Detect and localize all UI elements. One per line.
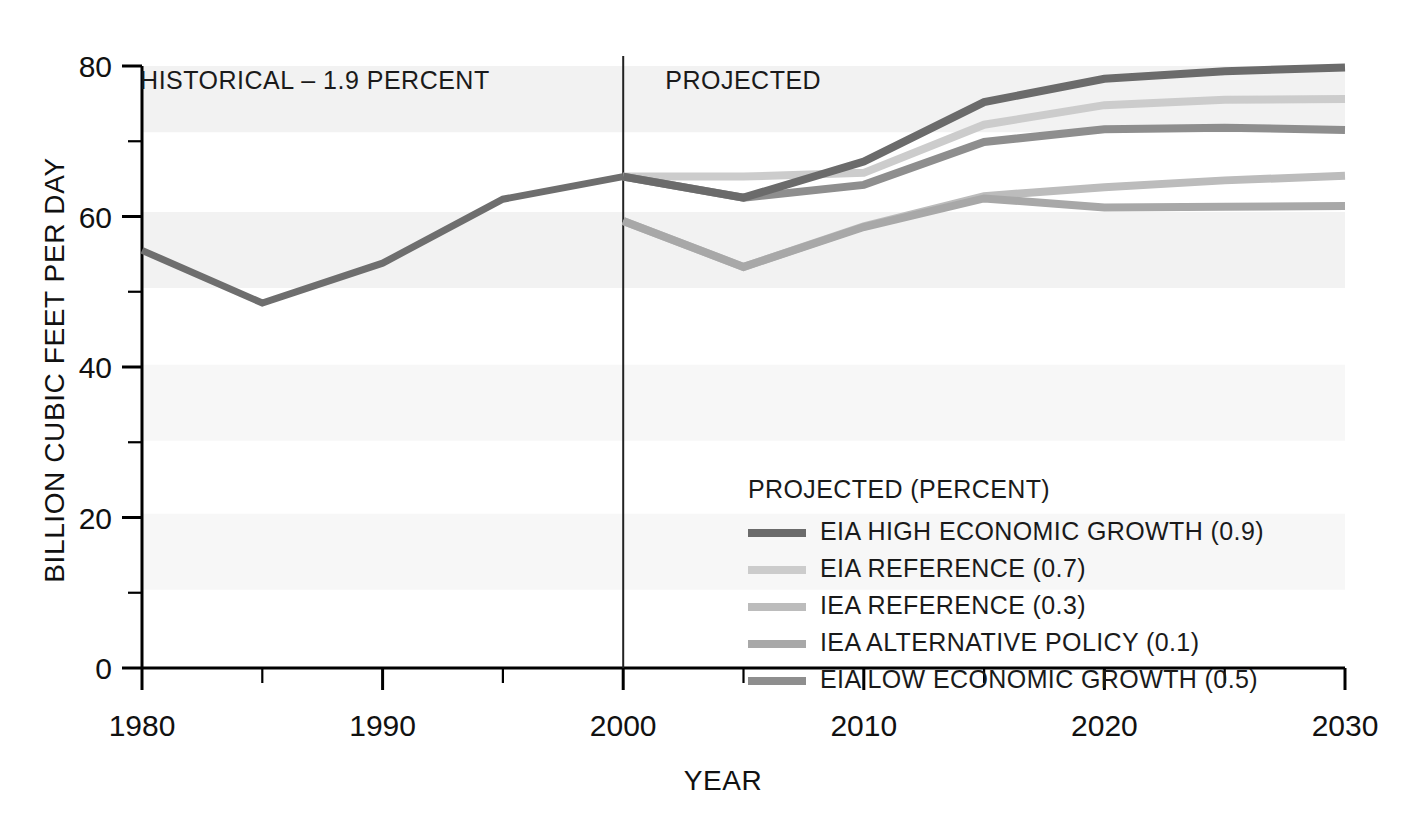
projected-label: PROJECTED (665, 66, 821, 94)
legend-item[interactable]: EIA LOW ECONOMIC GROWTH (0.5) (748, 665, 1258, 693)
line-chart: 020406080 198019902000201020202030 HISTO… (0, 0, 1406, 836)
legend-item[interactable]: EIA HIGH ECONOMIC GROWTH (0.9) (748, 517, 1264, 545)
x-tick-label: 2020 (1071, 709, 1138, 742)
legend-swatch (748, 529, 806, 537)
y-axis-title: BILLION CUBIC FEET PER DAY (39, 157, 70, 582)
legend-swatch (748, 677, 806, 685)
x-tick-label: 2010 (830, 709, 897, 742)
y-tick-label: 60 (79, 201, 112, 234)
background-band (142, 365, 1345, 441)
background-band (142, 212, 1345, 288)
legend-swatch (748, 603, 806, 611)
legend-item-label: EIA LOW ECONOMIC GROWTH (0.5) (820, 665, 1258, 693)
legend-item-label: EIA HIGH ECONOMIC GROWTH (0.9) (820, 517, 1264, 545)
legend-item-label: IEA REFERENCE (0.3) (820, 591, 1086, 619)
y-tick-label: 0 (95, 652, 112, 685)
y-tick-label: 40 (79, 351, 112, 384)
y-tick-label: 20 (79, 502, 112, 535)
legend-swatch (748, 566, 806, 574)
x-tick-label: 2000 (590, 709, 657, 742)
legend-item-label: IEA ALTERNATIVE POLICY (0.1) (820, 628, 1199, 656)
x-tick-label: 1990 (349, 709, 416, 742)
historical-label: HISTORICAL – 1.9 PERCENT (140, 66, 490, 94)
x-tick-label: 2030 (1312, 709, 1379, 742)
legend-title: PROJECTED (PERCENT) (748, 475, 1050, 503)
chart-container: 020406080 198019902000201020202030 HISTO… (0, 0, 1406, 836)
legend-swatch (748, 640, 806, 648)
x-tick-label: 1980 (109, 709, 176, 742)
legend-item-label: EIA REFERENCE (0.7) (820, 554, 1086, 582)
x-axis-title: YEAR (684, 765, 763, 796)
plot-annotations: HISTORICAL – 1.9 PERCENTPROJECTED (140, 66, 821, 94)
y-tick-label: 80 (79, 50, 112, 83)
